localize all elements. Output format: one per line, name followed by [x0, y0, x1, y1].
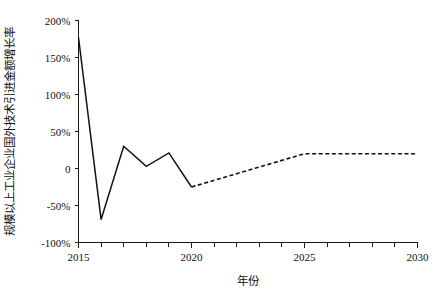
chart-container: 200%150%100%50%0-50%-100% 20152020202520… — [0, 0, 440, 292]
y-tick-label: 150% — [45, 52, 71, 64]
x-axis: 2015202020252030 — [68, 243, 430, 263]
x-tick-label: 2020 — [181, 251, 204, 263]
y-tick-label: 200% — [45, 15, 71, 27]
x-tick-label: 2025 — [294, 251, 317, 263]
data-series-group — [79, 38, 418, 220]
x-tick-label: 2015 — [68, 251, 91, 263]
historical-line — [79, 38, 192, 220]
x-tick-label: 2030 — [407, 251, 430, 263]
y-tick-label: 0 — [65, 163, 71, 175]
y-axis: 200%150%100%50%0-50%-100% — [41, 15, 78, 249]
y-tick-label: -100% — [41, 237, 70, 249]
x-axis-title: 年份 — [237, 274, 260, 287]
y-tick-label: 50% — [50, 126, 70, 138]
forecast-line — [192, 154, 418, 187]
y-tick-label: -50% — [47, 200, 71, 212]
y-axis-title: 规模以上工业企业国外技术引进金额增长率 — [3, 27, 16, 236]
y-tick-label: 100% — [45, 89, 71, 101]
line-chart: 200%150%100%50%0-50%-100% 20152020202520… — [0, 0, 440, 292]
